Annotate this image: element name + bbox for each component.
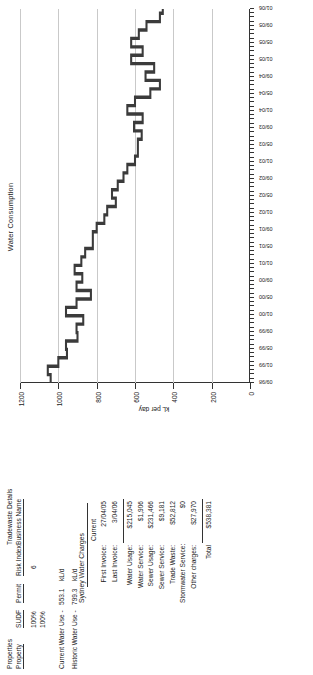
y-tick-label: 1000 <box>56 392 63 406</box>
x-tick-label: 09/00 <box>259 277 273 283</box>
x-tick-label: 01/04 <box>259 107 273 113</box>
chart-y-axis-title: kL per day <box>139 406 170 413</box>
water-service-value: $1,906 <box>137 501 144 541</box>
water-consumption-chart: Water Consumption kL per day 02004006008… <box>4 5 304 429</box>
current-water-use-row: Current Water Use - 553.1 kL/d <box>58 533 71 669</box>
x-tick: 09/05 <box>250 25 254 26</box>
x-tick <box>250 378 254 379</box>
y-tick-label: 800 <box>94 392 101 403</box>
x-tick <box>250 170 254 171</box>
x-tick <box>250 369 254 370</box>
x-tick: 09/02 <box>250 178 254 179</box>
x-tick <box>250 85 254 86</box>
table-row: Sewer Usage: $231,466 <box>147 433 158 603</box>
x-tick <box>250 38 254 39</box>
sewer-usage-label: Sewer Usage: <box>147 545 154 603</box>
tradewaste-details-heading: Tradewaste Details <box>6 489 13 545</box>
x-tick <box>250 225 254 226</box>
x-tick-label: 05/04 <box>259 90 273 96</box>
historic-water-use-value: 799.3 <box>71 588 78 605</box>
y-tick: 600 <box>135 383 136 389</box>
x-tick-label: 01/01 <box>259 260 273 266</box>
column-header-business-name: Business Name <box>15 499 24 545</box>
x-tick <box>250 301 254 302</box>
chart-frame: 020040060080010001200 09/9801/9905/9909/… <box>20 9 250 383</box>
x-tick-label: 01/03 <box>259 158 273 164</box>
table-row: 100% 6 <box>30 433 39 669</box>
charges-column-header: Current <box>90 433 100 603</box>
table-row: Other charges: $27,970 <box>190 433 201 603</box>
properties-heading: Properties <box>6 639 13 669</box>
x-tick-label: 05/01 <box>259 243 273 249</box>
trade-waste-value: $52,812 <box>169 501 176 541</box>
column-header-row: Property SUDF Permit Risk Index Business… <box>15 433 27 669</box>
table-row: Stormwater Service: $0 <box>179 433 190 603</box>
x-tick <box>250 284 254 285</box>
property-rows: 100% 6 100% <box>30 433 48 669</box>
x-tick-label: 09/98 <box>259 379 273 385</box>
sewer-service-value: $9,181 <box>158 501 165 541</box>
cell-sudf: 100% <box>39 611 46 628</box>
x-tick <box>250 34 254 35</box>
column-header-property: Property <box>15 644 24 669</box>
x-tick-label: 09/03 <box>259 124 273 130</box>
x-tick <box>250 357 254 358</box>
x-tick: 09/98 <box>250 382 254 383</box>
y-tick-label: 600 <box>133 392 140 403</box>
last-invoice-value: 3/04/06 <box>111 501 118 541</box>
x-tick <box>250 306 254 307</box>
table-row: Last Invoice: 3/04/06 <box>111 433 122 603</box>
y-tick: 0 <box>250 383 251 389</box>
x-tick <box>250 323 254 324</box>
x-tick <box>250 21 254 22</box>
x-tick <box>250 187 254 188</box>
x-tick <box>250 221 254 222</box>
last-invoice-label: Last Invoice: <box>111 545 118 603</box>
x-tick-label: 05/00 <box>259 294 273 300</box>
x-tick-label: 09/01 <box>259 226 273 232</box>
x-tick: 05/00 <box>250 297 254 298</box>
x-tick <box>250 272 254 273</box>
x-tick <box>250 148 254 149</box>
water-service-label: Water Service: <box>137 545 144 603</box>
x-tick <box>250 157 254 158</box>
table-row: First Invoice: 27/04/05 <box>100 433 111 603</box>
x-tick <box>250 310 254 311</box>
table-row: Water Usage: $215,045 <box>126 433 137 603</box>
x-tick <box>250 80 254 81</box>
first-invoice-value: 27/04/05 <box>100 501 107 541</box>
stormwater-service-label: Stormwater Service: <box>179 545 186 603</box>
x-tick: 09/03 <box>250 127 254 128</box>
x-tick-label: 05/05 <box>259 39 273 45</box>
x-tick <box>250 46 254 47</box>
column-header-risk-index: Risk Index <box>15 545 24 576</box>
x-tick <box>250 174 254 175</box>
sydney-water-charges-table: Sydney Water Charges Current First Invoi… <box>78 433 216 603</box>
charges-separator-rule <box>123 499 124 543</box>
x-tick <box>250 165 254 166</box>
x-tick: 09/04 <box>250 76 254 77</box>
x-tick: 09/99 <box>250 331 254 332</box>
x-tick-label: 01/00 <box>259 311 273 317</box>
trade-waste-label: Trade Waste: <box>169 545 176 603</box>
x-tick-label: 09/02 <box>259 175 273 181</box>
sewer-service-label: Sewer Service: <box>158 545 165 603</box>
y-tick: 800 <box>97 383 98 389</box>
x-tick <box>250 182 254 183</box>
charges-title: Sydney Water Charges <box>78 433 86 603</box>
x-tick <box>250 242 254 243</box>
y-tick: 1200 <box>20 383 21 389</box>
x-tick <box>250 267 254 268</box>
chart-title: Water Consumption <box>6 5 15 429</box>
x-tick <box>250 374 254 375</box>
x-tick <box>250 51 254 52</box>
x-tick <box>250 199 254 200</box>
x-tick <box>250 153 254 154</box>
x-tick: 01/04 <box>250 110 254 111</box>
x-tick-label: 01/02 <box>259 209 273 215</box>
water-usage-label: Water Usage: <box>126 545 133 603</box>
x-tick <box>250 17 254 18</box>
total-label: Total <box>205 545 212 603</box>
x-tick <box>250 238 254 239</box>
other-charges-label: Other charges: <box>190 545 197 603</box>
